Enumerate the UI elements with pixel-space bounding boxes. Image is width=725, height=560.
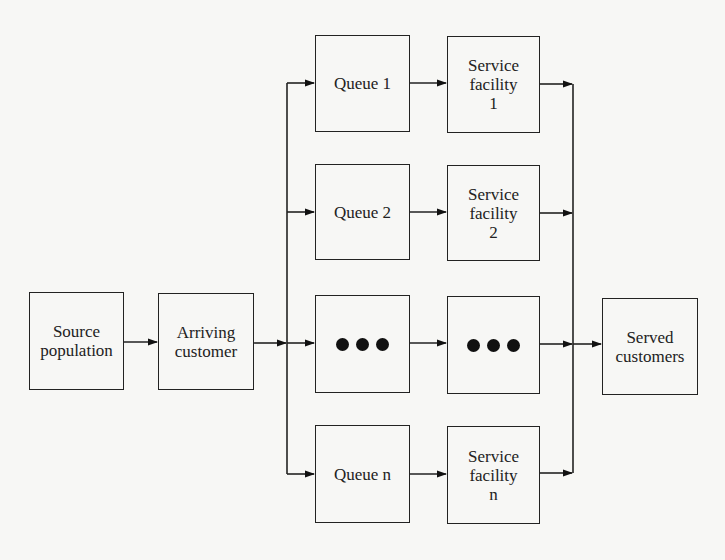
queue-ellipsis-box — [315, 295, 410, 393]
arriving-customer-label: Arriving customer — [175, 323, 237, 361]
queue-1-box: Queue 1 — [315, 35, 410, 132]
queue-n-box: Queue n — [315, 425, 410, 523]
service-facility-1-box: Service facility 1 — [447, 36, 540, 133]
queue-2-label: Queue 2 — [334, 203, 391, 222]
service-facility-n-label: Service facility n — [468, 447, 519, 504]
service-facility-2-box: Service facility 2 — [447, 165, 540, 261]
arriving-customer-box: Arriving customer — [158, 293, 254, 390]
served-customers-box: Served customers — [602, 298, 698, 395]
queue-1-label: Queue 1 — [334, 74, 391, 93]
queue-2-box: Queue 2 — [315, 164, 410, 260]
ellipsis-icon — [336, 338, 389, 351]
source-population-label: Source population — [40, 322, 113, 360]
ellipsis-icon — [467, 339, 520, 352]
service-facility-n-box: Service facility n — [447, 426, 540, 524]
service-facility-1-label: Service facility 1 — [468, 56, 519, 113]
service-facility-2-label: Service facility 2 — [468, 185, 519, 242]
served-customers-label: Served customers — [616, 328, 685, 366]
queue-n-label: Queue n — [334, 465, 391, 484]
source-population-box: Source population — [29, 292, 124, 390]
service-ellipsis-box — [447, 296, 540, 394]
